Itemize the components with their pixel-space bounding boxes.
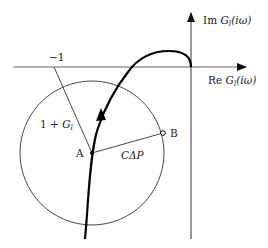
radius-label: CΔP [121,149,145,161]
imag-axis-label: Im Gl(iω) [203,14,251,28]
vector-label: 1 + Gl [40,118,74,132]
vector-1-plus-G [54,67,92,153]
point-a [90,151,94,155]
nyquist-diagram: Im Gl(iω) Re Gl(iω) −1 1 + Gl CΔP A B [0,0,268,248]
nyquist-curve [85,51,191,239]
critical-point-label: −1 [49,51,64,63]
point-a-label: A [75,147,84,159]
point-b [161,131,166,136]
point-b-label: B [170,127,178,139]
real-axis-label: Re Gl(iω) [208,74,256,88]
